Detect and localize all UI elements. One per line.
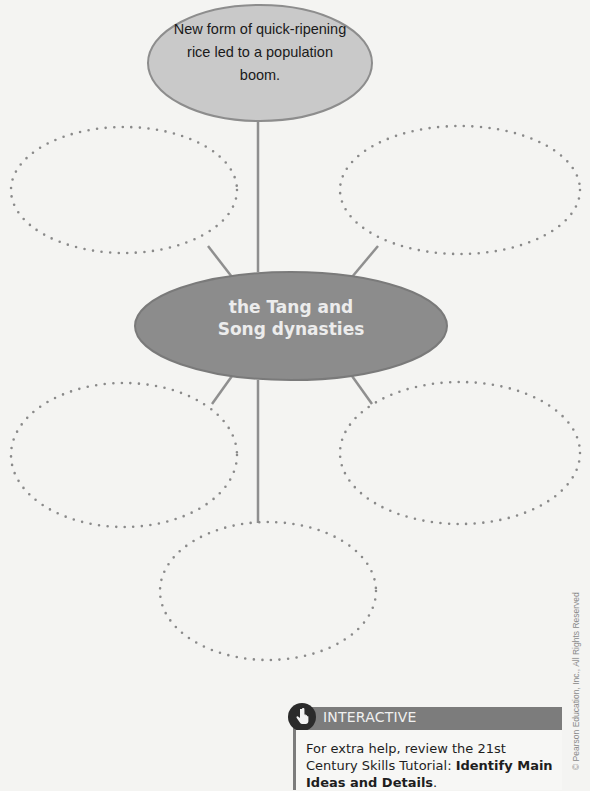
empty-node-lower-right[interactable] — [340, 382, 580, 524]
center-node-text: the Tang and Song dynasties — [160, 296, 422, 340]
top-node-line-1: New form of quick-ripening — [160, 18, 360, 41]
empty-node-upper-right[interactable] — [340, 126, 580, 254]
top-node-line-3: boom. — [160, 64, 360, 87]
center-node-line-2: Song dynasties — [160, 318, 422, 340]
empty-node-lower-left[interactable] — [11, 383, 237, 527]
interactive-text-suffix: . — [433, 775, 437, 790]
interactive-text[interactable]: For extra help, review the 21st Century … — [306, 740, 561, 791]
top-node-line-2: rice led to a population — [160, 41, 360, 64]
copyright-notice: © Pearson Education, Inc., All Rights Re… — [571, 592, 581, 770]
pointer-hand-icon — [288, 703, 316, 731]
empty-node-bottom[interactable] — [160, 522, 376, 660]
interactive-body: For extra help, review the 21st Century … — [293, 730, 562, 790]
top-node-text: New form of quick-ripening rice led to a… — [160, 18, 360, 87]
interactive-header: INTERACTIVE — [293, 707, 562, 730]
center-node-line-1: the Tang and — [160, 296, 422, 318]
empty-node-upper-left[interactable] — [11, 127, 237, 253]
interactive-callout[interactable]: INTERACTIVE For extra help, review the 2… — [293, 707, 562, 787]
interactive-label: INTERACTIVE — [323, 709, 417, 725]
